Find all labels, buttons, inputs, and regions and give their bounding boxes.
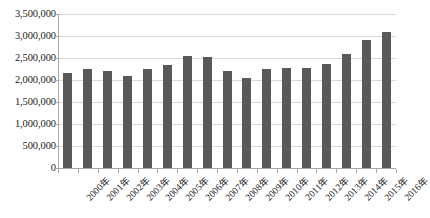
x-axis-tick: [237, 169, 238, 173]
y-axis-tick: [54, 124, 58, 125]
x-axis-tick: [376, 169, 377, 173]
x-axis-tick: [316, 169, 317, 173]
x-axis-tick: [157, 169, 158, 173]
y-axis-tick: [54, 58, 58, 59]
x-axis-tick: [396, 169, 397, 173]
x-axis-tick: [217, 169, 218, 173]
x-axis-tick: [336, 169, 337, 173]
x-axis-tick: [177, 169, 178, 173]
x-axis-tick: [297, 169, 298, 173]
y-axis-tick: [54, 14, 58, 15]
x-axis-tick: [277, 169, 278, 173]
y-axis-tick: [54, 36, 58, 37]
y-axis-tick: [54, 146, 58, 147]
x-axis-tick: [98, 169, 99, 173]
x-axis-tick: [118, 169, 119, 173]
x-axis-tick: [257, 169, 258, 173]
x-axis-tick: [58, 169, 59, 173]
y-axis-tick: [54, 168, 58, 169]
x-axis-tick: [356, 169, 357, 173]
y-axis-tick: [54, 102, 58, 103]
y-axis-tick: [54, 80, 58, 81]
x-axis-tick: [197, 169, 198, 173]
x-axis-tick: [78, 169, 79, 173]
x-axis-tick: [138, 169, 139, 173]
